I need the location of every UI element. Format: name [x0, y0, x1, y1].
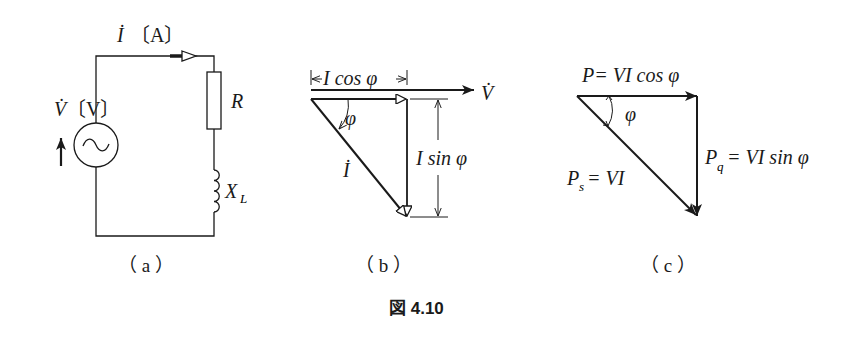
figure-4-10: İ 〔A〕 V̇ 〔V〕 R X L （ a ） I cos φ V̇ φ İ …	[0, 0, 854, 339]
caption-c: （ c ）	[640, 255, 696, 276]
inductor-subscript: L	[239, 191, 247, 206]
caption-a: （ a ）	[118, 255, 174, 276]
figure-caption: 図 4.10	[389, 299, 444, 318]
inductor-label: X	[224, 180, 238, 202]
apparent-power-label-sub: s	[579, 179, 584, 194]
i-label: İ	[342, 159, 351, 181]
caption-b: （ b ）	[355, 255, 412, 276]
apparent-power-label-p: P	[566, 167, 579, 189]
v-label: V̇	[481, 82, 496, 104]
active-power-label: P= VI cos φ	[581, 64, 679, 87]
current-unit: 〔A〕	[130, 24, 184, 46]
inductor-symbol	[214, 170, 219, 212]
power-triangle: φ P= VI cos φ P q = VI sin φ P s = VI （ …	[566, 64, 809, 276]
resistor-label: R	[230, 90, 243, 112]
current-phasor	[311, 99, 406, 216]
resistor-symbol	[207, 72, 221, 129]
current-label: İ	[116, 24, 125, 46]
phasor-diagram: I cos φ V̇ φ İ I sin φ （ b ）	[311, 67, 496, 276]
circuit-diagram: İ 〔A〕 V̇ 〔V〕 R X L （ a ）	[54, 24, 247, 276]
phi-label: φ	[625, 103, 636, 126]
angle-arc-icon	[608, 96, 612, 126]
voltage-unit: 〔V〕	[66, 98, 120, 120]
apparent-power-vector	[577, 96, 696, 215]
reactive-power-label-sub: q	[717, 159, 724, 174]
phi-label: φ	[345, 107, 356, 130]
isin-label: I sin φ	[415, 147, 467, 170]
reactive-power-label-p: P	[704, 146, 717, 168]
apparent-power-label-rest: = VI	[587, 167, 626, 189]
current-arrow-icon	[182, 51, 196, 61]
icos-label: I cos φ	[322, 67, 377, 90]
reactive-power-label-rest: = VI sin φ	[727, 146, 809, 169]
